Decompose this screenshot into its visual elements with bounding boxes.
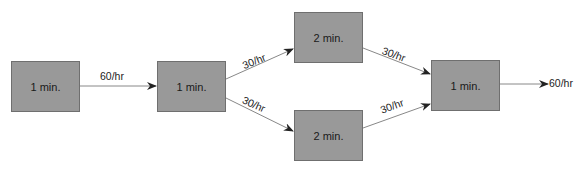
process-box-c: 2 min. — [294, 12, 363, 63]
process-time: 2 min. — [314, 130, 344, 142]
rate-label-output: 60/hr — [549, 77, 573, 89]
process-time: 1 min. — [451, 80, 481, 92]
process-box-a: 1 min. — [11, 61, 80, 112]
process-box-e: 1 min. — [431, 60, 500, 111]
process-box-b: 1 min. — [157, 61, 226, 112]
process-time: 1 min. — [177, 81, 207, 93]
process-box-d: 2 min. — [294, 110, 363, 161]
process-time: 2 min. — [314, 32, 344, 44]
process-time: 1 min. — [31, 81, 61, 93]
rate-label-a-b: 60/hr — [100, 70, 124, 82]
